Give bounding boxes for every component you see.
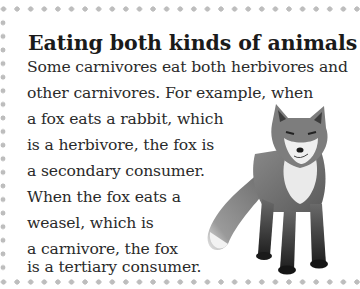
body-line: a secondary consumer.: [27, 162, 205, 180]
body-line: Some carnivores eat both herbivores and: [27, 58, 348, 76]
body-line: other carnivores. For example, when: [27, 84, 313, 102]
body-line: is a tertiary consumer.: [27, 258, 201, 276]
dotted-border-bottom: [0, 279, 360, 285]
body-line: is a herbivore, the fox is: [27, 136, 214, 154]
fox-illustration: [200, 104, 350, 279]
dotted-border-top: [0, 6, 360, 12]
body-line: a fox eats a rabbit, which: [27, 110, 223, 128]
dotted-border-left: [0, 16, 6, 278]
body-line: a carnivore, the fox: [27, 240, 178, 258]
panel-title: Eating both kinds of animals: [28, 31, 357, 55]
body-line: When the fox eats a: [27, 188, 181, 206]
body-line: weasel, which is: [27, 214, 154, 232]
